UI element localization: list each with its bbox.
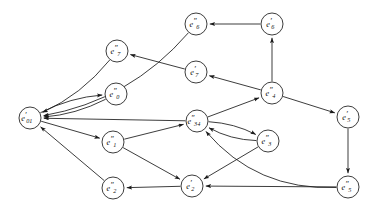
- edge-e1pp-to-e2p: [123, 148, 180, 180]
- graph-node-e3pp[interactable]: e″3: [257, 130, 279, 152]
- graph-node-e7pp[interactable]: e″7: [106, 40, 128, 62]
- edge-e3pp-to-e34pp: [209, 128, 256, 141]
- graph-node-e7p[interactable]: e′7: [185, 61, 207, 83]
- graph-node-e4pp[interactable]: e″4: [261, 82, 283, 104]
- edge-e2pp-to-e01p: [41, 127, 105, 181]
- edge-e3pp-to-e2p: [204, 147, 258, 179]
- nodes-layer: e′01e″0e″1e″2e′2e″34e″3e″4e′5e″5e′6e″6e′…: [19, 13, 359, 199]
- edge-e5pp-to-e2p: [206, 186, 337, 187]
- graph-node-e6pp[interactable]: e″6: [185, 13, 207, 35]
- graph-node-e5pp[interactable]: e″5: [337, 176, 359, 198]
- edge-e34pp-to-e4pp: [208, 98, 259, 117]
- graph-node-e34pp[interactable]: e″34: [186, 110, 208, 132]
- graph-node-e5p[interactable]: e′5: [337, 106, 359, 128]
- edges-layer: [40, 24, 348, 188]
- edge-e7p-to-e7pp: [130, 55, 184, 69]
- edge-e4pp-to-e5p: [283, 96, 335, 112]
- graph-canvas: e′01e″0e″1e″2e′2e″34e″3e″4e′5e″5e′6e″6e′…: [0, 0, 384, 210]
- edge-e1pp-to-e34pp: [124, 124, 183, 139]
- edge-e7pp-to-e01p: [43, 60, 110, 112]
- graph-node-e1pp[interactable]: e″1: [102, 131, 124, 153]
- graph-node-e2pp[interactable]: e″2: [102, 177, 124, 199]
- edge-e01p-to-e1pp: [41, 121, 100, 138]
- edge-e01p-to-e0pp: [40, 95, 102, 113]
- edge-e34pp-to-e01p: [44, 118, 186, 121]
- graph-node-e01p[interactable]: e′01: [19, 107, 41, 129]
- edge-e2p-to-e2pp: [127, 186, 181, 187]
- graph-diagram: e′01e″0e″1e″2e′2e″34e″3e″4e′5e″5e′6e″6e′…: [0, 0, 384, 210]
- graph-node-e6p[interactable]: e′6: [261, 13, 283, 35]
- graph-node-e2p[interactable]: e′2: [181, 175, 203, 197]
- edge-e4pp-to-e7p: [209, 76, 261, 90]
- edge-e34pp-to-e3pp: [209, 122, 256, 135]
- graph-node-e0pp[interactable]: e″0: [105, 83, 127, 105]
